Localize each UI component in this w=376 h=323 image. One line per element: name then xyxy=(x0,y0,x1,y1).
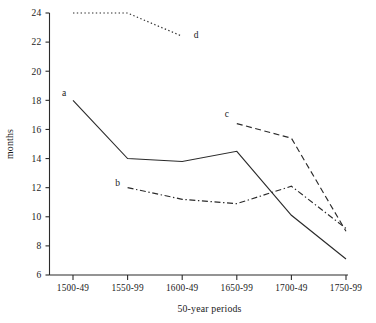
series-line-a xyxy=(73,100,346,259)
x-axis: 1500-491550-991600-491650-991700-491750-… xyxy=(50,275,363,293)
x-axis-title: 50-year periods xyxy=(177,303,241,314)
x-tick-label: 1500-49 xyxy=(57,283,90,293)
y-tick-label: 14 xyxy=(31,154,41,164)
line-chart: 681012141618202224 1500-491550-991600-49… xyxy=(0,0,376,323)
y-tick-label: 10 xyxy=(31,212,41,222)
series-label-b: b xyxy=(115,178,120,188)
y-tick-label: 18 xyxy=(31,96,41,106)
series-group xyxy=(73,13,346,259)
y-tick-label: 22 xyxy=(31,37,41,47)
x-tick-label: 1700-49 xyxy=(275,283,308,293)
series-line-b xyxy=(128,186,346,228)
x-tick-label: 1550-99 xyxy=(111,283,144,293)
series-label-a: a xyxy=(62,88,67,98)
x-tick-group: 1500-491550-991600-491650-991700-491750-… xyxy=(57,275,363,293)
x-tick-label: 1600-49 xyxy=(166,283,199,293)
y-axis: 681012141618202224 xyxy=(31,8,49,280)
y-tick-label: 16 xyxy=(31,125,41,135)
y-tick-label: 6 xyxy=(36,270,41,280)
chart-canvas: 681012141618202224 1500-491550-991600-49… xyxy=(0,0,376,323)
series-label-c: c xyxy=(225,109,229,119)
y-tick-label: 12 xyxy=(31,183,41,193)
y-tick-group: 681012141618202224 xyxy=(31,8,49,280)
y-tick-label: 20 xyxy=(31,67,41,77)
series-line-d xyxy=(73,13,182,36)
series-label-d: d xyxy=(194,30,199,40)
y-axis-title: months xyxy=(4,129,15,159)
series-label-group: abcd xyxy=(62,30,229,187)
y-tick-label: 24 xyxy=(31,8,41,18)
y-tick-label: 8 xyxy=(36,241,41,251)
x-tick-label: 1750-99 xyxy=(330,283,363,293)
x-tick-label: 1650-99 xyxy=(221,283,254,293)
